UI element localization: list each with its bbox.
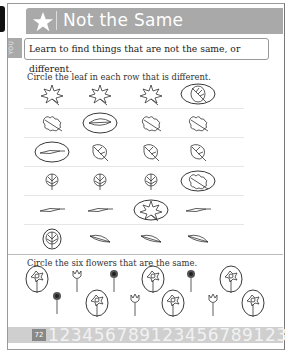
tulip-icon (200, 289, 226, 319)
willow-leaf-icon (178, 227, 218, 251)
thin-leaf-icon (178, 198, 218, 222)
oak-leaf-icon (131, 111, 171, 135)
fan-leaf-icon (80, 169, 120, 193)
leaf-oak-leaf[interactable] (178, 169, 218, 193)
page-edge-tab (0, 6, 5, 32)
flower-daffodil[interactable] (240, 289, 266, 323)
row-divider (24, 108, 244, 109)
maple-leaf-icon (131, 198, 171, 222)
leaf-heart-leaf[interactable] (131, 140, 171, 164)
leaf-oak-leaf[interactable] (178, 111, 218, 135)
heart-leaf-icon (178, 140, 218, 164)
page-number: 72 (32, 329, 46, 341)
oak-leaf-icon (32, 111, 72, 135)
leaf-willow-leaf[interactable] (80, 227, 120, 251)
fan-leaf-icon (32, 227, 72, 251)
leaf-fan-leaf[interactable] (32, 227, 72, 251)
leaf-thin-leaf[interactable] (32, 198, 72, 222)
row-divider (24, 137, 244, 138)
tulip-icon (122, 289, 148, 319)
row-divider (24, 195, 244, 196)
flower-tulip[interactable] (200, 289, 226, 323)
footer-number-strip: 123456789123456789123 (48, 325, 287, 345)
header-separator (56, 11, 57, 30)
leaf-round-leaf[interactable] (178, 82, 218, 106)
leaf-maple-leaf[interactable] (131, 198, 171, 222)
flower-tulip[interactable] (122, 289, 148, 323)
flower-daffodil[interactable] (160, 289, 186, 323)
heart-leaf-icon (131, 140, 171, 164)
leaf-willow-leaf[interactable] (178, 227, 218, 251)
leaf-instruction: Circle the leaf in each row that is diff… (27, 72, 211, 82)
round-leaf-icon (178, 82, 218, 106)
willow-leaf-icon (131, 227, 171, 251)
page-footer: 72 123456789123456789123 (8, 327, 283, 343)
leaf-maple-leaf[interactable] (32, 82, 72, 106)
daffodil-icon (84, 289, 110, 319)
leaf-heart-leaf[interactable] (178, 140, 218, 164)
star-icon (32, 11, 54, 33)
side-tab-label: YOU (7, 41, 14, 55)
thin-leaf-icon (32, 198, 72, 222)
flower-daffodil[interactable] (84, 289, 110, 323)
row-divider (24, 224, 244, 225)
daffodil-icon (160, 289, 186, 319)
leaf-fan-leaf[interactable] (80, 169, 120, 193)
leaf-heart-leaf[interactable] (80, 140, 120, 164)
daisy-icon (44, 287, 70, 317)
leaf-thin-leaf[interactable] (178, 198, 218, 222)
fan-leaf-icon (131, 169, 171, 193)
leaf-maple-leaf[interactable] (131, 82, 171, 106)
page-title: Not the Same (63, 10, 183, 30)
side-tab: YOU (8, 38, 22, 58)
oak-leaf-icon (178, 169, 218, 193)
heart-leaf-icon (80, 140, 120, 164)
thin-leaf-icon (32, 140, 72, 164)
leaf-long-leaf[interactable] (80, 111, 120, 135)
long-leaf-icon (80, 111, 120, 135)
leaf-willow-leaf[interactable] (131, 227, 171, 251)
section-divider (8, 254, 283, 255)
oak-leaf-icon (178, 111, 218, 135)
maple-leaf-icon (80, 82, 120, 106)
flower-daisy[interactable] (44, 287, 70, 321)
maple-leaf-icon (32, 82, 72, 106)
thin-leaf-icon (80, 198, 120, 222)
leaf-thin-leaf[interactable] (32, 140, 72, 164)
maple-leaf-icon (131, 82, 171, 106)
leaf-fan-leaf[interactable] (131, 169, 171, 193)
leaf-fan-leaf[interactable] (32, 169, 72, 193)
row-divider (24, 166, 244, 167)
leaf-oak-leaf[interactable] (32, 111, 72, 135)
leaf-thin-leaf[interactable] (80, 198, 120, 222)
intro-box: Learn to find things that are not the sa… (24, 38, 269, 60)
leaf-maple-leaf[interactable] (80, 82, 120, 106)
page-header: Not the Same (26, 8, 283, 34)
leaf-oak-leaf[interactable] (131, 111, 171, 135)
willow-leaf-icon (80, 227, 120, 251)
daffodil-icon (240, 289, 266, 319)
fan-leaf-icon (32, 169, 72, 193)
